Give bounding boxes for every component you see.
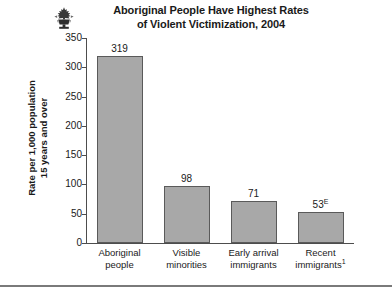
y-axis-tick-labels: 050100150200250300350: [48, 38, 82, 244]
bar-item[interactable]: 71: [231, 38, 277, 243]
y-axis-tick-label: 50: [48, 209, 82, 219]
category-label-line-1: Early arrival: [217, 247, 291, 259]
category-label-line-1: Recent: [284, 247, 358, 259]
y-axis-tick-mark: [82, 155, 86, 156]
footer-divider: [0, 285, 392, 287]
bar-value-label: 98: [164, 173, 210, 184]
bar-rect[interactable]: [97, 56, 143, 243]
bar-value-label: 319: [97, 43, 143, 54]
x-axis-category-label: Early arrivalimmigrants: [217, 247, 291, 271]
category-label-line-1: Visible: [150, 247, 224, 259]
y-axis-tick-label: 100: [48, 179, 82, 189]
y-axis-tick-mark: [82, 184, 86, 185]
maple-leaf-emblem-icon: [51, 5, 77, 31]
plot-area: 319987153E: [86, 38, 354, 244]
y-axis-tick-label: 250: [48, 92, 82, 102]
category-footnote-marker: 1: [342, 258, 346, 265]
y-axis-tick-label: 350: [48, 33, 82, 43]
y-axis-title: Rate per 1,000 population 15 years and o…: [26, 53, 50, 223]
bar-rect[interactable]: [298, 212, 344, 243]
x-axis-line: [86, 243, 354, 244]
chart-header: Aboriginal People Have Highest Rates of …: [0, 4, 392, 31]
bar-item[interactable]: 319: [97, 38, 143, 243]
category-label-line-2: immigrants: [217, 259, 291, 271]
category-label-line-1: Aboriginal: [83, 247, 157, 259]
y-axis-tick-mark: [82, 97, 86, 98]
page-title: Aboriginal People Have Highest Rates of …: [81, 4, 341, 31]
x-axis-category-label: Aboriginalpeople: [83, 247, 157, 271]
bar-series: 319987153E: [86, 38, 354, 243]
y-axis-tick-label: 200: [48, 121, 82, 131]
category-label-line-2: minorities: [150, 259, 224, 271]
y-axis-tick-mark: [82, 67, 86, 68]
y-axis-tick-mark: [82, 243, 86, 244]
title-line-2: of Violent Victimization, 2004: [137, 18, 285, 30]
bar-value-marker: E: [324, 198, 329, 205]
y-axis-tick-mark: [82, 126, 86, 127]
bar-item[interactable]: 53E: [298, 38, 344, 243]
category-label-line-2: people: [83, 259, 157, 271]
y-axis-tick-label: 0: [48, 238, 82, 248]
title-line-1: Aboriginal People Have Highest Rates: [113, 4, 309, 16]
bar-rect[interactable]: [231, 201, 277, 243]
bar-value-label: 71: [231, 188, 277, 199]
category-label-line-2: immigrants1: [284, 259, 358, 271]
y-axis-tick-label: 300: [48, 62, 82, 72]
bar-chart: Rate per 1,000 population 15 years and o…: [0, 38, 392, 278]
y-axis-tick-mark: [82, 214, 86, 215]
bar-item[interactable]: 98: [164, 38, 210, 243]
bar-rect[interactable]: [164, 186, 210, 243]
x-axis-category-label: Recentimmigrants1: [284, 247, 358, 271]
y-axis-tick-label: 150: [48, 150, 82, 160]
y-axis-tick-mark: [82, 38, 86, 39]
x-axis-category-label: Visibleminorities: [150, 247, 224, 271]
bar-value-label: 53E: [298, 199, 344, 210]
y-axis-title-line-1: Rate per 1,000 population: [26, 53, 38, 223]
x-axis-category-labels: AboriginalpeopleVisibleminoritiesEarly a…: [86, 247, 354, 279]
